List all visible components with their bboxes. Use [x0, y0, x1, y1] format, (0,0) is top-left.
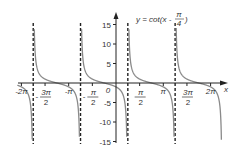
x-tick-label: π [161, 87, 167, 96]
curve-branch [176, 28, 221, 140]
x-tick-label-fraction: π2 [135, 88, 146, 107]
cotangent-chart: 15105-5-10-15-2π-3π2-π-π2π2π3π22π0x y = … [0, 0, 237, 152]
fraction-numerator: 3π [41, 88, 51, 97]
y-tick-label: 5 [107, 60, 112, 69]
x-tick-label: 2π [205, 87, 216, 96]
x-tick-label-fraction: -3π2 [35, 88, 51, 107]
fraction-numerator: 3π [183, 88, 193, 97]
y-tick-label: -10 [99, 118, 111, 127]
origin-label: 0 [106, 86, 111, 95]
title-text: y = cot(x - [135, 15, 172, 24]
x-tick-label: -2π [15, 87, 28, 96]
fraction-denominator: 2 [138, 98, 143, 107]
y-tick-label: 15 [102, 21, 111, 30]
title-fraction-denominator: 4 [177, 19, 182, 28]
fraction-denominator: 2 [91, 98, 96, 107]
cotangent-curves [17, 28, 221, 140]
y-tick-label: 10 [102, 40, 111, 49]
x-tick-label: -π [65, 87, 74, 96]
x-axis-label: x [223, 85, 229, 94]
title-close-paren: ) [184, 15, 188, 24]
y-tick-label: -5 [104, 99, 112, 108]
fraction-numerator: π [91, 88, 97, 97]
y-tick-label: -15 [99, 138, 111, 147]
x-tick-label-fraction: -π2 [83, 88, 99, 107]
title-fraction-numerator: π [176, 10, 182, 19]
minus-sign: - [35, 92, 38, 101]
axes [18, 12, 228, 143]
x-tick-label-fraction: 3π2 [182, 88, 194, 107]
y-axis-arrow-icon [114, 12, 119, 19]
minus-sign: - [83, 92, 86, 101]
fraction-denominator: 2 [186, 98, 191, 107]
fraction-numerator: π [138, 88, 144, 97]
chart-title: y = cot(x - π4) [135, 10, 188, 28]
fraction-denominator: 2 [44, 98, 49, 107]
